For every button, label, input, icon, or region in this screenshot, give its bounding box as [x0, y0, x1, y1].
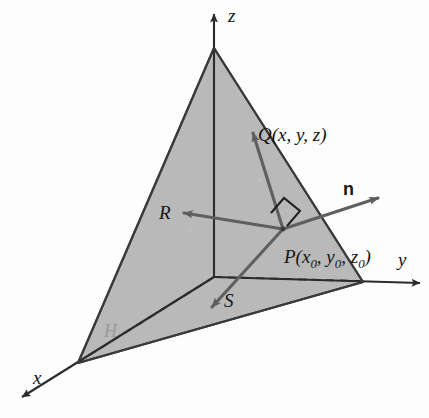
- point-label-P-base: P(x: [284, 246, 310, 267]
- point-label-P: P(x0, y0, z0): [284, 247, 371, 271]
- point-label-P-tail: ): [365, 246, 371, 267]
- axis-label-x: x: [33, 368, 41, 387]
- vector-label-n: n: [343, 180, 354, 198]
- point-label-Q: Q(x, y, z): [258, 125, 327, 144]
- point-P-marker: [281, 227, 286, 232]
- vector-label-R: R: [159, 203, 171, 222]
- plane-polygon: [78, 48, 363, 363]
- point-label-P-mid-y: , y: [317, 246, 335, 267]
- point-label-P-mid-z: , z: [341, 246, 358, 267]
- vector-label-S: S: [224, 291, 234, 310]
- axis-label-y: y: [398, 250, 406, 269]
- figure-canvas: [0, 0, 429, 418]
- plane-normal-vector-figure: z y x Q(x, y, z) P(x0, y0, z0) n R S H: [0, 0, 429, 418]
- axis-label-z: z: [228, 6, 235, 25]
- plane-label-H: H: [104, 322, 117, 340]
